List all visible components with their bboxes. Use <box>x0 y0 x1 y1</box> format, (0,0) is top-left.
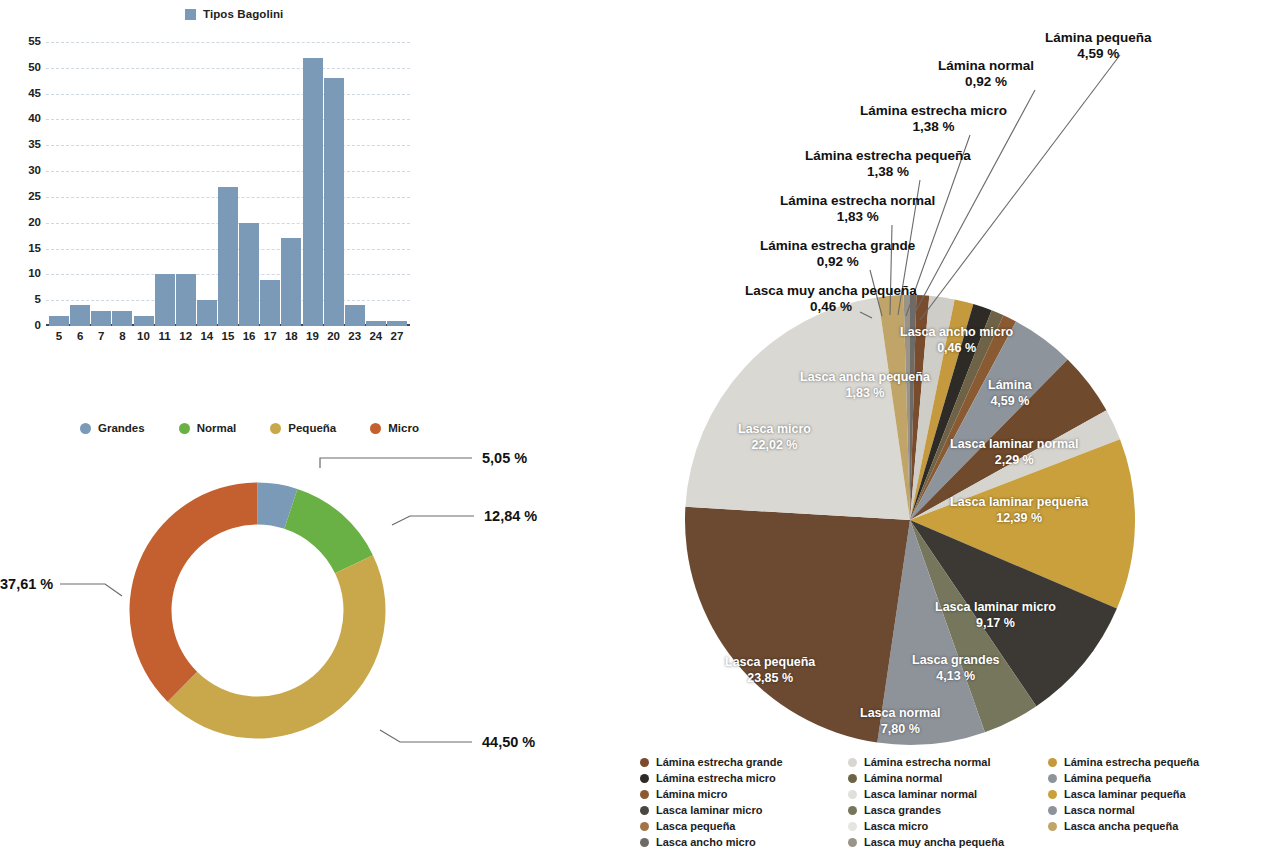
bar-y-tick-10: 10 <box>28 269 41 281</box>
pie-slice-lasca-micro[interactable] <box>685 297 910 520</box>
bar-column-15[interactable] <box>218 42 238 326</box>
pie-outlabel-lamina-estrecha-pequena: Lámina estrecha pequeña 1,38 % <box>805 148 971 180</box>
bar-column-7[interactable] <box>91 42 111 326</box>
pie-inlabel-lasca-laminar-micro: Lasca laminar micro 9,17 % <box>935 600 1056 631</box>
pie-legend-item-l-mina-estrecha-micro[interactable]: Lámina estrecha micro <box>640 771 848 786</box>
pie-legend-item-lasca-grandes[interactable]: Lasca grandes <box>848 803 1048 818</box>
bar-rect-27[interactable] <box>387 321 407 326</box>
pie-legend-item-l-mina-estrecha-peque-a[interactable]: Lámina estrecha pequeña <box>1048 755 1263 770</box>
pie-legend-item-l-mina-estrecha-grande[interactable]: Lámina estrecha grande <box>640 755 848 770</box>
bar-column-8[interactable] <box>112 42 132 326</box>
pie-inlabel-lasca-laminar-micro-value: 9,17 % <box>935 616 1056 632</box>
bar-column-12[interactable] <box>176 42 196 326</box>
donut-legend-label-grandes: Grandes <box>98 422 145 434</box>
donut-legend-item-grandes[interactable]: Grandes <box>80 422 145 434</box>
pie-legend-item-lasca-micro[interactable]: Lasca micro <box>848 819 1048 834</box>
bar-chart-panel: Tipos Bagolini 0510152025303540455055 56… <box>0 0 420 390</box>
donut-slice-micro[interactable] <box>130 483 258 702</box>
pie-legend-label-l-mina-normal: Lámina normal <box>864 772 942 784</box>
bar-column-10[interactable] <box>134 42 154 326</box>
pie-legend-item-lasca-peque-a[interactable]: Lasca pequeña <box>640 819 848 834</box>
pie-legend-swatch-l-mina-estrecha-micro <box>640 774 649 783</box>
pie-inlabel-lasca-laminar-pequena-name: Lasca laminar pequeña <box>950 495 1088 511</box>
bar-column-27[interactable] <box>387 42 407 326</box>
pie-inlabel-lasca-normal: Lasca normal 7,80 % <box>860 706 941 737</box>
bar-rect-11[interactable] <box>155 274 175 326</box>
pie-outlabel-lamina-estrecha-micro-name: Lámina estrecha micro <box>860 103 1007 119</box>
bar-column-6[interactable] <box>70 42 90 326</box>
bar-rect-6[interactable] <box>70 305 90 326</box>
pie-outlabel-lamina-estrecha-micro-value: 1,38 % <box>860 119 1007 135</box>
pie-outlabel-lamina-estrecha-grande-name: Lámina estrecha grande <box>760 238 915 254</box>
bar-column-20[interactable] <box>324 42 344 326</box>
donut-legend-label-micro: Micro <box>388 422 419 434</box>
bar-column-14[interactable] <box>197 42 217 326</box>
bar-rect-17[interactable] <box>260 280 280 326</box>
bar-rect-19[interactable] <box>303 58 323 327</box>
pie-legend-item-lasca-muy-ancha-peque-a[interactable]: Lasca muy ancha pequeña <box>848 835 1048 850</box>
donut-legend-item-pequena[interactable]: Pequeña <box>270 422 336 434</box>
pie-legend-item-l-mina-peque-a[interactable]: Lámina pequeña <box>1048 771 1263 786</box>
bar-chart-bars <box>46 42 410 326</box>
bar-column-18[interactable] <box>281 42 301 326</box>
bar-y-tick-15: 15 <box>28 243 41 255</box>
pie-legend-label-l-mina-estrecha-peque-a: Lámina estrecha pequeña <box>1064 756 1199 768</box>
bar-x-tick-17: 17 <box>260 330 280 342</box>
pie-legend-swatch-l-mina-estrecha-normal <box>848 758 857 767</box>
pie-inlabel-lasca-ancho-micro: Lasca ancho micro 0,46 % <box>900 325 1013 356</box>
bar-rect-8[interactable] <box>112 311 132 326</box>
pie-legend-swatch-lasca-micro <box>848 822 857 831</box>
bar-rect-24[interactable] <box>366 321 386 326</box>
bar-x-tick-18: 18 <box>281 330 301 342</box>
pie-legend-swatch-l-mina-normal <box>848 774 857 783</box>
bar-x-tick-7: 7 <box>91 330 111 342</box>
bar-rect-23[interactable] <box>345 305 365 326</box>
bar-rect-10[interactable] <box>134 316 154 326</box>
pie-inlabel-lasca-grandes-name: Lasca grandes <box>912 653 1000 669</box>
donut-callout-pequena: 44,50 % <box>482 734 535 750</box>
bar-column-17[interactable] <box>260 42 280 326</box>
pie-inlabel-lasca-laminar-pequena-value: 12,39 % <box>950 511 1088 527</box>
pie-legend-swatch-lasca-laminar-normal <box>848 790 857 799</box>
pie-legend-swatch-lasca-ancha-peque-a <box>1048 822 1057 831</box>
pie-legend-item-l-mina-estrecha-normal[interactable]: Lámina estrecha normal <box>848 755 1048 770</box>
bar-column-16[interactable] <box>239 42 259 326</box>
bar-rect-7[interactable] <box>91 311 111 326</box>
bar-column-11[interactable] <box>155 42 175 326</box>
pie-inlabel-lamina-name: Lámina <box>988 378 1032 394</box>
bar-rect-14[interactable] <box>197 300 217 326</box>
bar-rect-12[interactable] <box>176 274 196 326</box>
pie-legend-item-lasca-laminar-normal[interactable]: Lasca laminar normal <box>848 787 1048 802</box>
pie-legend-column-2: Lámina estrecha normalLámina normalLasca… <box>848 755 1048 850</box>
pie-chart-panel: Lámina pequeña 4,59 % Lámina normal 0,92… <box>620 0 1263 852</box>
bar-column-5[interactable] <box>49 42 69 326</box>
pie-legend-item-lasca-ancha-peque-a[interactable]: Lasca ancha pequeña <box>1048 819 1263 834</box>
bar-column-24[interactable] <box>366 42 386 326</box>
pie-legend-item-lasca-normal[interactable]: Lasca normal <box>1048 803 1263 818</box>
bar-rect-5[interactable] <box>49 316 69 326</box>
pie-legend-item-lasca-ancho-micro[interactable]: Lasca ancho micro <box>640 835 848 850</box>
bar-rect-18[interactable] <box>281 238 301 326</box>
pie-legend-item-l-mina-normal[interactable]: Lámina normal <box>848 771 1048 786</box>
pie-inlabel-lasca-pequena-name: Lasca pequeña <box>725 655 815 671</box>
bar-rect-20[interactable] <box>324 78 344 326</box>
donut-slice-peque-a[interactable] <box>168 555 386 738</box>
donut-slice-normal[interactable] <box>284 489 373 573</box>
bar-column-23[interactable] <box>345 42 365 326</box>
donut-legend-item-normal[interactable]: Normal <box>179 422 237 434</box>
pie-legend-item-lasca-laminar-peque-a[interactable]: Lasca laminar pequeña <box>1048 787 1263 802</box>
bar-rect-15[interactable] <box>218 187 238 326</box>
pie-legend-swatch-lasca-peque-a <box>640 822 649 831</box>
bar-x-tick-8: 8 <box>112 330 132 342</box>
pie-inlabel-lamina-value: 4,59 % <box>988 394 1032 410</box>
pie-inlabel-lasca-laminar-micro-name: Lasca laminar micro <box>935 600 1056 616</box>
pie-legend-item-l-mina-micro[interactable]: Lámina micro <box>640 787 848 802</box>
bar-column-19[interactable] <box>303 42 323 326</box>
pie-legend-swatch-lasca-normal <box>1048 806 1057 815</box>
donut-legend-item-micro[interactable]: Micro <box>370 422 419 434</box>
donut-callout-normal: 12,84 % <box>484 508 537 524</box>
bar-x-tick-15: 15 <box>218 330 238 342</box>
pie-legend-item-lasca-laminar-micro[interactable]: Lasca laminar micro <box>640 803 848 818</box>
donut-legend-swatch-micro <box>370 423 381 434</box>
bar-rect-16[interactable] <box>239 223 259 326</box>
